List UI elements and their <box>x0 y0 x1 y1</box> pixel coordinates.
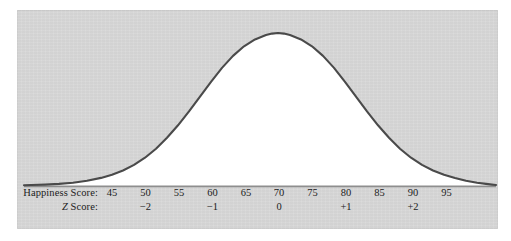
curve-fill-area <box>24 33 496 187</box>
figure-root: Happiness Score: 45 50 55 60 65 70 75 80… <box>0 0 511 241</box>
normal-distribution-curve <box>0 0 511 241</box>
